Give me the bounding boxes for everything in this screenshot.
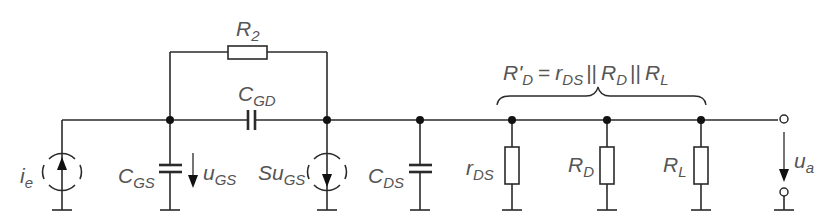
- label-ugs: uGS: [203, 161, 236, 188]
- capacitor-cgd: CGD: [238, 82, 276, 130]
- output-terminal-top: [780, 115, 788, 123]
- arrow-down-icon: [779, 169, 789, 182]
- output-terminal-bottom: [780, 188, 788, 196]
- label-rl: RL: [663, 153, 687, 180]
- label-cgd: CGD: [238, 82, 276, 109]
- label-cgs: CGS: [118, 164, 155, 191]
- circuit-diagram: R2 CGD ie CGS uGS: [0, 0, 838, 221]
- arrow-down-icon: [188, 175, 198, 188]
- label-r2: R2: [236, 17, 260, 44]
- voltage-arrow-ugs: uGS: [188, 153, 236, 188]
- label-rds: rDS: [466, 156, 494, 183]
- arrow-up-icon: [57, 157, 67, 170]
- label-ua: ua: [794, 149, 814, 176]
- resistor-rl: RL: [663, 120, 711, 210]
- resistor-rds: rDS: [466, 120, 522, 210]
- curly-brace: [497, 87, 706, 105]
- label-ie: ie: [20, 164, 33, 191]
- arrow-down-icon: [322, 174, 332, 187]
- current-source-ie: ie: [20, 120, 81, 210]
- label-rd: RD: [568, 153, 594, 180]
- output-ua: ua: [774, 115, 814, 210]
- capacitor-cgs: CGS: [118, 120, 182, 210]
- resistor-rd: RD: [568, 120, 617, 210]
- parallel-equation: R'D=rDS||RD||RL: [503, 61, 669, 88]
- resistor-r2: [228, 46, 267, 59]
- label-sugs: SuGS: [258, 161, 305, 188]
- controlled-source-sugs: SuGS: [258, 120, 346, 210]
- capacitor-cds: CDS: [368, 120, 432, 210]
- label-cds: CDS: [368, 164, 404, 191]
